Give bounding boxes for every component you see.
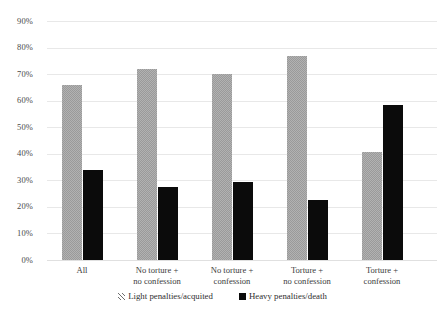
bar-heavy [83,170,103,260]
bar-chart: 90%80%70%60%50%40%30%20%10%0% AllNo tort… [0,0,445,316]
x-axis-category-line: Torture + [334,265,430,276]
legend-item-heavy[interactable]: Heavy penalties/death [239,291,327,302]
legend-item-light[interactable]: Light penalties/acquited [118,291,213,302]
bar-light [62,85,82,260]
bar-heavy [308,200,328,260]
bar-light [137,69,157,260]
bar-light [287,56,307,260]
chart-legend: Light penalties/acquited Heavy penalties… [0,291,445,302]
legend-item-light-label: Light penalties/acquited [128,291,213,302]
bar-heavy [383,105,403,260]
x-axis-category-line: confession [334,276,430,287]
x-axis-category-label: Torture +confession [334,265,430,287]
bar-light [212,74,232,260]
legend-item-heavy-label: Heavy penalties/death [249,291,327,302]
bar-heavy [158,187,178,260]
bar-heavy [233,182,253,260]
bar-light [362,152,382,260]
filled-square-icon [239,293,246,300]
hatched-square-icon [118,293,125,300]
